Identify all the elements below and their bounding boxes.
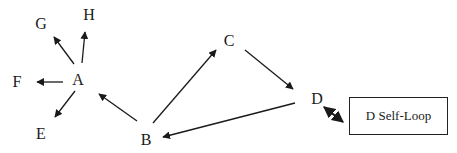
edge-b-to-a bbox=[99, 94, 137, 121]
node-e: E bbox=[36, 126, 46, 142]
self-loop-box: D Self-Loop bbox=[349, 97, 448, 135]
node-h: H bbox=[83, 7, 95, 23]
node-b: B bbox=[141, 132, 152, 148]
node-c: C bbox=[224, 33, 235, 49]
self-loop-arrow bbox=[324, 107, 343, 122]
edge-b-to-c bbox=[153, 50, 216, 123]
edge-a-to-h bbox=[82, 32, 85, 63]
edge-a-to-g bbox=[54, 37, 74, 64]
edge-a-to-e bbox=[55, 91, 75, 117]
double-arrow-icon bbox=[324, 107, 343, 122]
node-a: A bbox=[72, 72, 84, 88]
edge-c-to-d bbox=[245, 50, 293, 89]
node-d: D bbox=[311, 91, 323, 107]
edge-d-to-b bbox=[163, 103, 295, 137]
graph-diagram: ABCDEFGH D Self-Loop bbox=[0, 0, 457, 153]
node-f: F bbox=[13, 74, 22, 90]
self-loop-label: D Self-Loop bbox=[366, 108, 431, 124]
node-g: G bbox=[35, 16, 47, 32]
